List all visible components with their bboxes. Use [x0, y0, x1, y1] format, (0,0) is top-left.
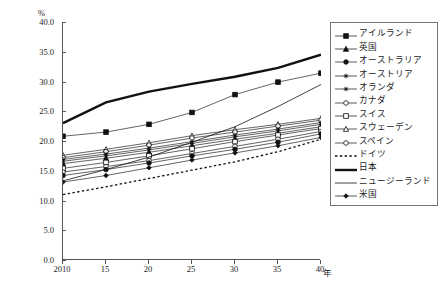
legend-item-label: 日本: [358, 163, 377, 172]
y-axis-tick-label: 5.0: [20, 225, 54, 235]
legend-item: 米国: [334, 188, 434, 201]
legend-item-label: 米国: [358, 190, 377, 199]
y-axis-tick-label: 35.0: [20, 47, 54, 57]
legend-item: オーストラリア: [334, 54, 434, 67]
y-axis-tick-label: 0.0: [20, 255, 54, 265]
x-axis-tick-label: 25: [187, 264, 196, 274]
legend-item-label: オランダ: [358, 83, 395, 92]
legend-item-label: スペイン: [358, 137, 394, 146]
legend-item: スウェーデン: [334, 121, 434, 134]
legend-item: 日本: [334, 161, 434, 174]
x-axis-tick-mark: [320, 260, 321, 264]
legend-item-label: ニュージーランド: [358, 177, 431, 186]
legend-item-label: カナダ: [358, 96, 386, 105]
x-axis-label: 年: [323, 266, 332, 278]
legend-marker-filled-square-icon: [334, 28, 358, 40]
x-axis-tick-label: 30: [230, 264, 239, 274]
x-axis-tick-mark: [62, 260, 63, 264]
x-axis-tick-label: 20: [144, 264, 153, 274]
legend-marker-asterisk-icon: [334, 68, 358, 80]
legend-item-label: オーストリア: [358, 70, 413, 79]
y-axis-tick-label: 30.0: [20, 77, 54, 87]
legend-item-label: スウェーデン: [358, 123, 413, 132]
legend-marker-thin-icon: [334, 175, 358, 187]
legend-item-label: オーストラリア: [358, 56, 422, 65]
legend-item-label: ドイツ: [358, 150, 386, 159]
y-axis-tick-label: 10.0: [20, 196, 54, 206]
y-axis-tick-label: 40.0: [20, 17, 54, 27]
legend-marker-filled-triangle-icon: [334, 41, 358, 53]
legend-item: カナダ: [334, 94, 434, 107]
legend-marker-dotted-icon: [334, 148, 358, 160]
plot-area: [62, 22, 320, 260]
x-axis-tick-label: 35: [273, 264, 282, 274]
series-lines: [63, 22, 321, 260]
legend-marker-thick-icon: [334, 162, 358, 174]
x-axis-tick-label: 15: [101, 264, 110, 274]
legend-item: アイルランド: [334, 27, 434, 40]
legend-item-label: アイルランド: [358, 29, 413, 38]
chart-container: % 0.05.010.015.020.025.030.035.040.0 201…: [0, 0, 444, 297]
legend-item-label: スイス: [358, 110, 386, 119]
legend-item: オーストリア: [334, 67, 434, 80]
legend-item: ニュージーランド: [334, 174, 434, 187]
legend-item-label: 英国: [358, 43, 377, 52]
x-axis-tick-mark: [191, 260, 192, 264]
x-axis-tick-label: 2010: [54, 264, 71, 274]
legend-item: ドイツ: [334, 148, 434, 161]
legend-marker-small-diamond-icon: [334, 188, 358, 200]
y-axis-tick-label: 25.0: [20, 106, 54, 116]
x-axis-tick-mark: [105, 260, 106, 264]
y-axis-tick-label: 20.0: [20, 136, 54, 146]
x-axis-tick-mark: [148, 260, 149, 264]
x-axis-tick-mark: [234, 260, 235, 264]
legend-item: 英国: [334, 40, 434, 53]
legend-item: スイス: [334, 107, 434, 120]
legend-marker-open-circle-icon: [334, 135, 358, 147]
x-axis-tick-mark: [277, 260, 278, 264]
legend-marker-open-triangle-icon: [334, 121, 358, 133]
chart-legend: アイルランド英国オーストラリアオーストリアオランダカナダスイススウェーデンスペイ…: [330, 22, 438, 206]
y-axis-tick-label: 15.0: [20, 166, 54, 176]
legend-marker-open-circle-icon: [334, 95, 358, 107]
legend-item: スペイン: [334, 134, 434, 147]
legend-item: オランダ: [334, 81, 434, 94]
legend-marker-asterisk-icon: [334, 81, 358, 93]
legend-marker-filled-circle-icon: [334, 54, 358, 66]
legend-marker-open-square-icon: [334, 108, 358, 120]
